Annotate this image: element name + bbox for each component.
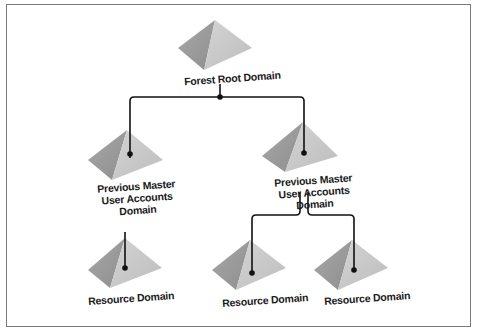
pyramid-icon-master-right: [262, 122, 338, 172]
pyramid-icon-resource-mid: [212, 240, 286, 290]
diagram-canvas: [0, 0, 478, 334]
node-label-master-left: Previous Master User Accounts Domain: [97, 177, 177, 218]
pyramid-icon-resource-right: [314, 240, 388, 290]
pyramid-icon-master-left: [88, 130, 163, 180]
pyramid-icon-root: [178, 20, 252, 70]
node-label-master-right: Previous Master User Accounts Domain: [274, 171, 354, 212]
